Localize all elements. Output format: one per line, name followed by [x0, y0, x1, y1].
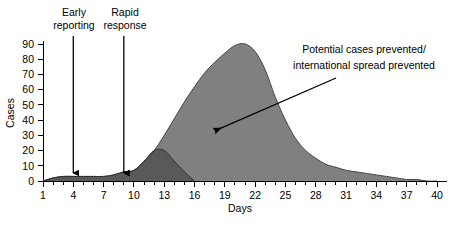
y-tick-label: 10 [22, 160, 34, 172]
y-tick-label: 20 [22, 144, 34, 156]
y-tick-label: 90 [22, 38, 34, 50]
x-tick-label: 34 [371, 189, 383, 201]
y-axis-ticks [38, 44, 43, 181]
x-tick-label: 25 [280, 189, 292, 201]
x-tick-label: 1 [40, 189, 46, 201]
epidemic-curve-figure: 0102030405060708090 14710131619222528313… [0, 0, 454, 231]
rapid-response-annotation: Rapid response [103, 6, 146, 173]
x-tick-label: 13 [158, 189, 170, 201]
x-tick-label: 16 [189, 189, 201, 201]
x-tick-label: 37 [401, 189, 413, 201]
x-tick-label: 40 [431, 189, 443, 201]
x-tick-label: 4 [70, 189, 76, 201]
y-axis-title: Cases [4, 98, 16, 128]
early-reporting-annotation: Early reporting [53, 6, 95, 173]
x-tick-label: 19 [219, 189, 231, 201]
x-tick-label: 22 [249, 189, 261, 201]
y-tick-label: 0 [28, 175, 34, 187]
y-tick-label: 30 [22, 129, 34, 141]
y-tick-label: 40 [22, 114, 34, 126]
x-axis-tick-labels: 1471013161922252831343740 [40, 189, 443, 201]
x-tick-label: 31 [340, 189, 352, 201]
rapid-response-label-line1: Rapid [111, 6, 139, 18]
prevented-callout-line1: Potential cases prevented/ [302, 43, 426, 55]
rapid-response-label-line2: response [103, 19, 146, 31]
y-tick-label: 80 [22, 53, 34, 65]
x-tick-label: 28 [310, 189, 322, 201]
y-axis-tick-labels: 0102030405060708090 [22, 38, 34, 187]
y-tick-label: 70 [22, 68, 34, 80]
marker-annotations: Early reporting Rapid response [53, 6, 146, 173]
x-axis-title: Days [228, 202, 252, 214]
x-tick-label: 7 [101, 189, 107, 201]
early-reporting-label-line1: Early [62, 6, 87, 18]
y-tick-label: 60 [22, 83, 34, 95]
chart-canvas: 0102030405060708090 14710131619222528313… [0, 0, 454, 231]
x-axis-ticks [43, 181, 437, 187]
x-tick-label: 10 [128, 189, 140, 201]
y-tick-label: 50 [22, 99, 34, 111]
early-reporting-label-line2: reporting [53, 19, 95, 31]
prevented-callout-line2: international spread prevented [293, 59, 435, 71]
